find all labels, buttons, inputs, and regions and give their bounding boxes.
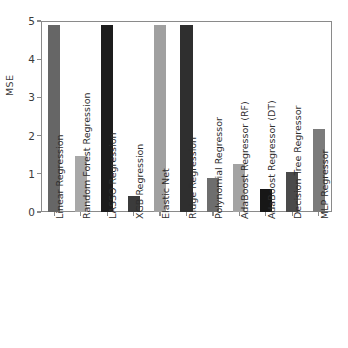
x-tick-label: Decision Tree Regressor [292,106,303,220]
x-tick-label: XGB Regression [134,144,145,219]
y-tick-label: 4 [28,52,35,66]
x-tick-label: Random Forest Regression [81,93,92,220]
y-axis: 012345 [0,0,41,233]
x-tick-label: Ridge Regression [187,137,198,219]
x-tick-label: Elastic Net [160,168,171,219]
y-tick-label: 1 [28,167,35,181]
x-tick-label: MLP Regressor [319,150,330,219]
bar-chart-figure: 012345 MSE Linear RegressionRandom Fores… [0,0,348,348]
y-axis-label: MSE [4,75,15,96]
x-axis: Linear RegressionRandom Forest Regressio… [41,212,332,348]
x-tick-label: AdaBoost Regressor (DT) [266,100,277,219]
y-tick-label: 0 [28,205,35,219]
x-tick-label: LASSO Regression [107,132,118,219]
y-tick-label: 2 [28,129,35,143]
x-tick-label: Linear Regression [54,134,65,219]
y-tick-label: 5 [28,14,35,28]
x-tick-label: Polynomial Regressor [213,117,224,219]
y-tick-label: 3 [28,90,35,104]
x-tick-label: AdaBoost Regressor (RF) [239,101,250,219]
